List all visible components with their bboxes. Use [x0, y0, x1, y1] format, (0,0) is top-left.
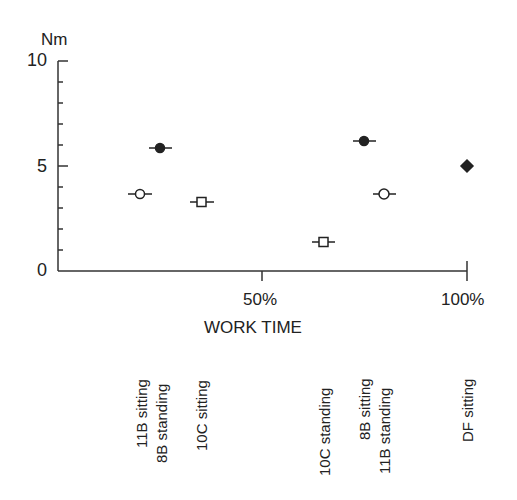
point-8b-sitting	[353, 137, 376, 146]
y-tick-0: 0	[37, 260, 47, 281]
category-label: 11B standing	[376, 388, 393, 474]
category-label: DF sitting	[459, 379, 476, 442]
category-label: 10C sitting	[193, 380, 210, 451]
x-tick-100: 100%	[441, 290, 484, 310]
point-10c-standing	[312, 238, 335, 247]
point-11b-sitting	[128, 190, 152, 199]
point-8b-standing	[149, 144, 172, 153]
y-axis-unit: Nm	[41, 30, 67, 50]
y-tick-10: 10	[27, 50, 47, 71]
category-label: 11B sitting	[133, 379, 150, 448]
category-label: 8B sitting	[356, 378, 373, 440]
category-label: 10C standing	[316, 388, 333, 476]
category-label: 8B standing	[153, 384, 170, 463]
point-11b-standing	[373, 189, 396, 199]
x-axis-title: WORK TIME	[204, 318, 302, 338]
point-10c-sitting	[190, 198, 214, 207]
point-df-sitting	[461, 160, 473, 172]
chart-plot	[0, 0, 517, 500]
y-tick-5: 5	[37, 156, 47, 177]
x-tick-50: 50%	[243, 290, 277, 310]
